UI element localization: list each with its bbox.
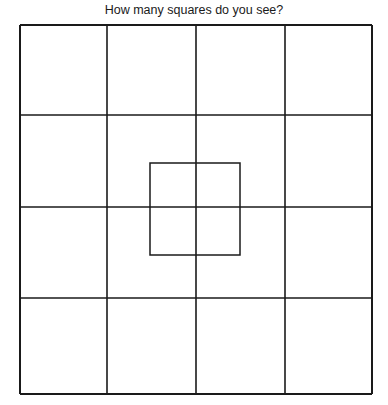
grid-lines	[20, 25, 372, 394]
inner-square	[150, 163, 240, 255]
squares-puzzle-figure	[0, 0, 388, 405]
